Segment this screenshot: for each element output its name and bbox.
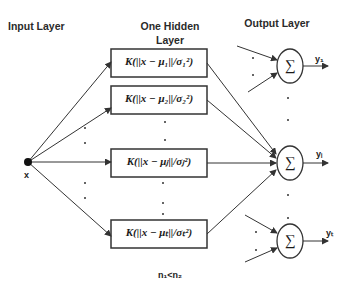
output-label-1: y₁ [315, 54, 324, 64]
output-label-t: yₜ [326, 228, 334, 238]
output-sum-i: ∑ [280, 154, 300, 171]
hidden-node-t: K(||x − μₜ||/σₜ²) [111, 226, 207, 239]
hidden-node-1: K(||x − μ₁||/σ₁²) [111, 55, 207, 67]
output-label-i: yᵢ [316, 149, 322, 159]
output-sum-1: ∑ [280, 57, 300, 74]
input-node-label: x [24, 170, 29, 180]
output-sum-t: ∑ [280, 232, 300, 249]
hidden-node-2: K(||x − μ₂||/σ₂²) [111, 92, 207, 104]
input-node-dot [24, 158, 32, 166]
hidden-node-j: K(||x − μⱼ||/σⱼ²) [111, 155, 207, 168]
network-diagram [0, 0, 354, 292]
footnote: n₁<n₂ [158, 270, 182, 280]
